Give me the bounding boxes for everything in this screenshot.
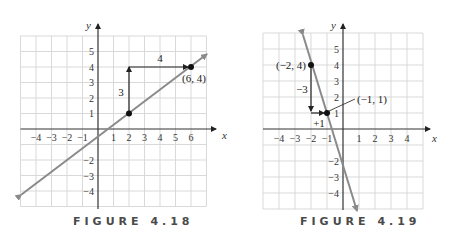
svg-text:4: 4: [158, 132, 163, 143]
svg-text:2: 2: [127, 132, 132, 143]
figure-4-18: x y −4 −3 −2 −1 1 2 3 4 5 6 5 4 3 2 1 −2…: [21, 19, 228, 209]
svg-text:−4: −4: [31, 132, 42, 143]
svg-text:−2: −2: [83, 155, 94, 166]
svg-text:−3: −3: [328, 172, 339, 183]
svg-text:−4: −4: [328, 188, 339, 199]
svg-text:1: 1: [89, 108, 94, 119]
svg-text:3: 3: [334, 76, 339, 87]
svg-text:5: 5: [89, 46, 94, 57]
svg-text:4: 4: [405, 133, 410, 144]
svg-text:1: 1: [334, 108, 339, 119]
svg-text:1: 1: [357, 133, 362, 144]
svg-text:−4: −4: [83, 186, 94, 197]
fig2-run-label: +1: [313, 117, 325, 129]
fig2-x-label: x: [431, 132, 437, 144]
fig1-x-ticks: −4 −3 −2 −1 1 2 3 4 5 6: [31, 132, 194, 143]
svg-text:2: 2: [373, 133, 378, 144]
svg-text:−2: −2: [306, 133, 317, 144]
svg-text:−1: −1: [322, 133, 333, 144]
fig2-y-label: y: [330, 19, 336, 31]
svg-text:−1: −1: [77, 132, 88, 143]
svg-text:−2: −2: [62, 132, 73, 143]
fig1-rise-label: 3: [118, 86, 124, 98]
svg-text:1: 1: [111, 132, 116, 143]
figure-4-19: x y −4 −3 −2 −1 1 2 3 4 5 4 3 2 1 −2 −3 …: [263, 19, 437, 211]
figures-canvas: x y −4 −3 −2 −1 1 2 3 4 5 6 5 4 3 2 1 −2…: [0, 0, 451, 242]
figure-4-19-caption: FIGURE 4.19: [300, 215, 421, 228]
fig2-point2-label: (−1, 1): [357, 93, 387, 106]
fig2-point-neg2-4: [308, 62, 314, 68]
svg-text:3: 3: [389, 133, 394, 144]
svg-text:−4: −4: [274, 133, 285, 144]
fig2-x-ticks: −4 −3 −2 −1 1 2 3 4: [274, 133, 410, 144]
svg-text:3: 3: [89, 77, 94, 88]
fig2-point-neg1-1: [324, 110, 330, 116]
svg-text:−3: −3: [46, 132, 57, 143]
fig1-x-label: x: [221, 129, 227, 141]
fig1-y-ticks: 5 4 3 2 1 −2 −3 −4: [83, 46, 94, 197]
figure-4-18-caption: FIGURE 4.18: [73, 215, 194, 228]
fig2-leader-line: [329, 99, 355, 111]
svg-text:2: 2: [89, 93, 94, 104]
fig2-point1-label: (−2, 4): [276, 59, 306, 72]
fig1-point-2-1: [126, 111, 132, 117]
fig1-line: [22, 54, 208, 195]
svg-text:3: 3: [142, 132, 147, 143]
fig2-rise-label: −3: [296, 83, 308, 95]
svg-text:−2: −2: [328, 156, 339, 167]
svg-text:5: 5: [334, 44, 339, 55]
svg-text:2: 2: [334, 92, 339, 103]
svg-text:4: 4: [89, 62, 94, 73]
fig1-grid: [21, 36, 207, 207]
fig1-run-label: 4: [157, 52, 163, 64]
svg-text:5: 5: [173, 132, 178, 143]
fig1-point-6-4: [188, 64, 194, 70]
svg-text:4: 4: [334, 60, 339, 71]
fig1-point-label: (6, 4): [182, 72, 206, 85]
svg-text:−3: −3: [83, 171, 94, 182]
svg-text:−3: −3: [290, 133, 301, 144]
svg-text:6: 6: [189, 132, 194, 143]
fig1-y-label: y: [85, 19, 91, 31]
